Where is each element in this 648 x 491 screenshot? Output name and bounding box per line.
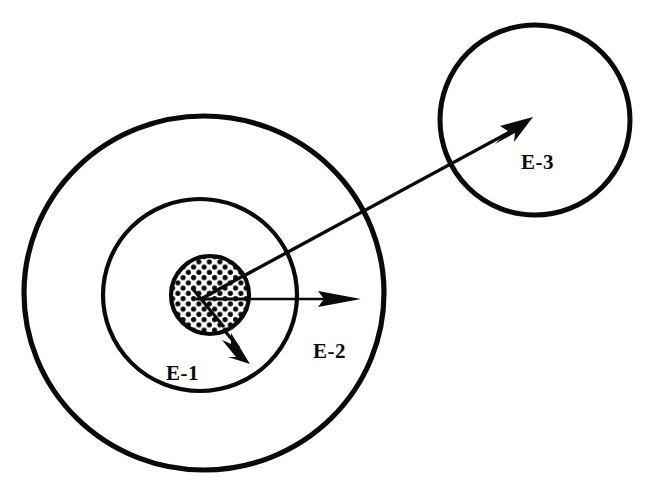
zone-label-e3: E-3 <box>521 150 554 174</box>
diagram-canvas: E-1 E-2 E-3 <box>0 0 648 491</box>
figure-root: E-1 E-2 E-3 <box>0 0 648 491</box>
zone-label-e1: E-1 <box>166 361 199 385</box>
zone-label-e2: E-2 <box>313 339 346 363</box>
figure-background <box>0 0 648 491</box>
